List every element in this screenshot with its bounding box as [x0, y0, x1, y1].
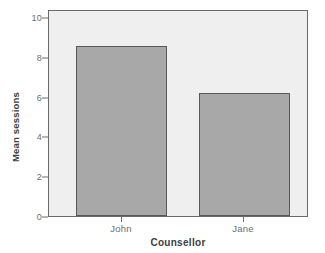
y-tick-label: 6	[2, 93, 42, 103]
x-tick-label-john: John	[86, 223, 156, 234]
y-tick-label: 4	[2, 132, 42, 142]
y-tick-label: 2	[2, 172, 42, 182]
y-tick-label: 0	[2, 212, 42, 222]
x-tick-mark	[121, 217, 122, 222]
x-tick-mark	[243, 217, 244, 222]
x-tick-label-jane: Jane	[208, 223, 278, 234]
bar-jane	[199, 93, 290, 216]
bar-john	[76, 46, 167, 216]
x-axis-title: Counsellor	[48, 237, 308, 248]
plot-area	[48, 10, 308, 217]
bar-chart-figure: Mean sessions 10 8 6 4 2 0 John Jane Cou…	[0, 0, 325, 253]
y-tick-label: 10	[2, 13, 42, 23]
y-axis: 10 8 6 4 2 0	[0, 0, 48, 253]
y-tick-label: 8	[2, 53, 42, 63]
